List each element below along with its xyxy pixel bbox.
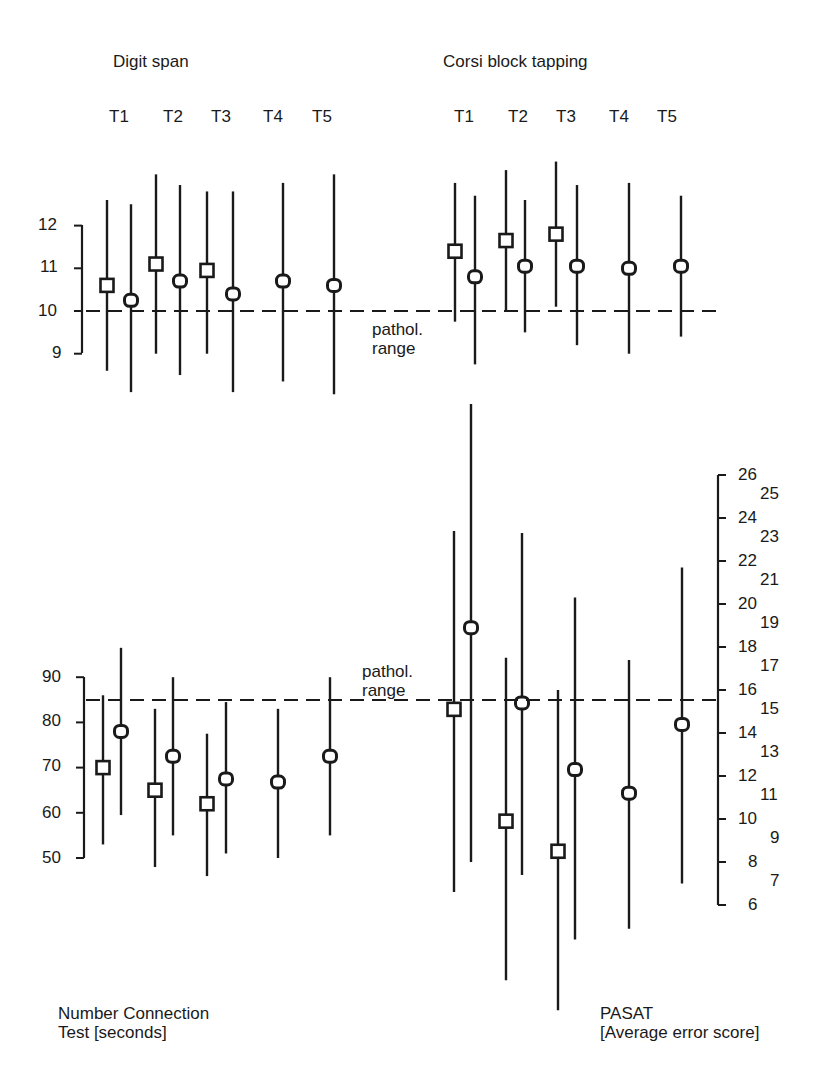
circle-marker	[272, 776, 285, 788]
circle-marker	[571, 260, 584, 272]
square-marker	[149, 784, 162, 797]
square-marker	[101, 279, 114, 292]
circle-marker	[675, 260, 688, 272]
circle-marker	[623, 262, 636, 274]
circle-marker	[676, 718, 689, 730]
square-marker	[500, 815, 513, 828]
circle-marker	[469, 271, 482, 283]
circle-marker	[623, 787, 636, 799]
circle-marker	[220, 773, 233, 785]
square-marker	[550, 228, 563, 241]
circle-marker	[125, 294, 138, 306]
circle-marker	[167, 750, 180, 762]
circle-marker	[277, 275, 290, 287]
square-marker	[552, 845, 565, 858]
square-marker	[448, 703, 461, 716]
square-marker	[97, 761, 110, 774]
circle-marker	[115, 725, 128, 737]
circle-marker	[324, 750, 337, 762]
circle-marker	[328, 279, 341, 291]
square-marker	[449, 245, 462, 258]
circle-marker	[174, 275, 187, 287]
circle-marker	[519, 260, 532, 272]
square-marker	[201, 797, 214, 810]
circle-marker	[227, 288, 240, 300]
circle-marker	[569, 764, 582, 776]
square-marker	[150, 258, 163, 271]
square-marker	[201, 264, 214, 277]
chart-canvas	[0, 0, 837, 1090]
square-marker	[500, 234, 513, 247]
circle-marker	[465, 622, 478, 634]
circle-marker	[516, 697, 529, 709]
